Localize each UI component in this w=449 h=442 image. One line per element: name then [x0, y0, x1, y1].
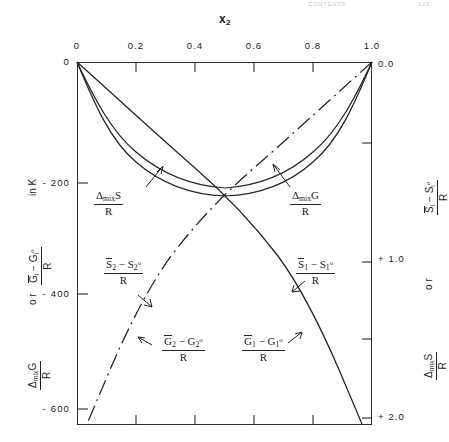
- y-right-caption-entropy-partial: Si − Sio R: [424, 180, 449, 215]
- page-running-header: CONTENTS 123: [300, 0, 449, 12]
- y-left-tick-label--600: - 600: [28, 403, 70, 414]
- page-header-title: CONTENTS: [308, 1, 346, 7]
- y-right-caption-or-text: o r: [423, 278, 434, 290]
- x-tick-label-0.8: 0.8: [305, 40, 322, 51]
- annotation-G2bar: G2 − G2o R: [162, 335, 205, 364]
- y-right-caption-dmixs: ΔmixS R: [424, 352, 449, 380]
- y-right-tick-label-+2.0: + 2.0: [378, 411, 405, 422]
- y-right-tick-label-0.0: 0.0: [378, 58, 395, 69]
- annotation-dmixG: ΔmixG R: [290, 190, 321, 218]
- x-tick-label-1.0: 1.0: [364, 40, 381, 51]
- x-tick-label-0: 0: [74, 40, 80, 51]
- y-left-caption-units-text: in K: [27, 179, 38, 196]
- y-left-caption-gibbs-partial: Gi − Gio R: [28, 247, 54, 285]
- annotation-S1bar: S1 − S1o R: [296, 258, 335, 287]
- annotation-dmixS: ΔmixS R: [94, 190, 123, 218]
- x-axis-title: x2: [219, 12, 231, 27]
- y-left-caption-units: in K: [27, 179, 38, 196]
- annotation-G1bar: G1 − G1o R: [242, 335, 285, 364]
- x-tick-label-0.2: 0.2: [128, 40, 145, 51]
- y-left-caption-dmixg: ΔmixG R: [28, 361, 53, 390]
- x-axis-title-sub: 2: [226, 18, 231, 27]
- page-header-number: 123: [418, 1, 430, 7]
- x-tick-label-0.4: 0.4: [187, 40, 204, 51]
- y-left-caption-or: o r: [27, 293, 38, 305]
- y-left-tick-label-0: 0: [40, 56, 70, 67]
- x-tick-label-0.6: 0.6: [246, 40, 263, 51]
- y-right-caption-or: o r: [423, 278, 434, 290]
- y-left-caption-or-text: o r: [27, 293, 38, 305]
- y-right-tick-label-+1.0: + 1.0: [378, 253, 405, 264]
- plot-frame: [77, 62, 372, 425]
- annotation-S2bar: S2 − S2o R: [104, 258, 143, 287]
